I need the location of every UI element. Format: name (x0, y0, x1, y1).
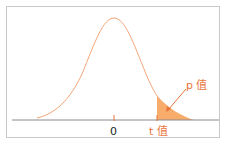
label-zero: 0 (110, 126, 117, 138)
p-value-region (157, 96, 194, 120)
label-p-value: p 值 (186, 80, 207, 92)
bell-curve (37, 18, 160, 118)
label-t-value: t 值 (149, 126, 168, 138)
p-value-arrow (168, 89, 186, 110)
